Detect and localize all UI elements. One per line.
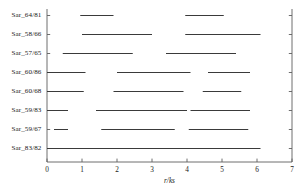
y-axis-category-label: Sar_57/65 — [11, 49, 41, 57]
x-axis-tick-label: 0 — [45, 165, 49, 174]
x-axis-tick-label: 1 — [80, 165, 84, 174]
interval-segments — [47, 16, 261, 149]
x-axis-tick-labels: 01234567 — [45, 165, 294, 174]
interval-chart: Sar_64/81Sar_58/66Sar_57/65Sar_60/86Sar_… — [0, 0, 308, 191]
y-axis-ticks — [47, 16, 292, 149]
y-axis-category-label: Sar_60/86 — [11, 68, 41, 76]
plot-frame — [47, 9, 292, 162]
axis-frame — [47, 9, 292, 162]
x-axis-tick-label: 2 — [115, 165, 119, 174]
x-axis-tick-label: 3 — [150, 165, 154, 174]
x-axis-tick-label: 5 — [220, 165, 224, 174]
chart-plot-area: Sar_64/81Sar_58/66Sar_57/65Sar_60/86Sar_… — [0, 0, 308, 191]
x-axis-tick-label: 7 — [290, 165, 294, 174]
x-axis-tick-label: 4 — [185, 165, 189, 174]
x-axis-title: r/ks — [164, 176, 175, 185]
y-axis-category-label: Sar_59/83 — [11, 106, 41, 114]
y-axis-category-label: Sar_64/81 — [11, 11, 41, 19]
y-axis-category-label: Sar_58/66 — [11, 30, 41, 38]
x-axis-tick-label: 6 — [255, 165, 259, 174]
x-axis-ticks — [47, 159, 292, 162]
y-axis-category-label: Sar_60/68 — [11, 87, 41, 95]
y-axis-category-label: Sar_83/82 — [11, 144, 41, 152]
y-axis-category-labels: Sar_64/81Sar_58/66Sar_57/65Sar_60/86Sar_… — [11, 11, 41, 152]
y-axis-category-label: Sar_59/67 — [11, 125, 41, 133]
